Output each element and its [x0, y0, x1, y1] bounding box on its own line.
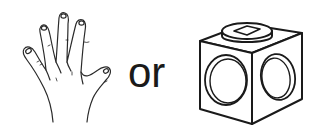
figure-canvas: or [0, 0, 312, 133]
connector-text: or [128, 52, 165, 94]
cube-brick-icon [190, 14, 312, 133]
open-hand-icon [0, 0, 130, 133]
